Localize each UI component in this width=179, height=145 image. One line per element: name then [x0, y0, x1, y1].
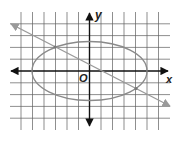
coordinate-graph [0, 0, 179, 145]
intersection-point-1 [53, 45, 56, 48]
origin-label: O [79, 73, 88, 84]
axes [11, 13, 168, 126]
intersection-point-2 [134, 87, 137, 90]
x-axis-label: x [166, 74, 172, 85]
y-axis-label: y [95, 9, 102, 21]
